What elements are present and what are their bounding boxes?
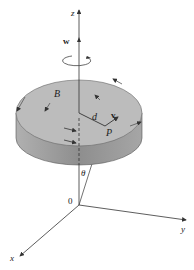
origin-label: 0 bbox=[68, 196, 73, 206]
y-axis-label: y bbox=[180, 224, 185, 234]
angular-velocity-arrowhead bbox=[77, 37, 81, 42]
rotating-disk-diagram: z w B d v P θ 0 y x bbox=[0, 0, 194, 270]
angular-velocity-label: w bbox=[63, 36, 70, 46]
x-axis-label: x bbox=[9, 253, 14, 263]
body-label: B bbox=[54, 88, 60, 99]
rotation-arrow-icon bbox=[63, 56, 91, 66]
velocity-arrow-rim-top bbox=[113, 79, 122, 84]
y-axis bbox=[79, 205, 186, 220]
x-axis bbox=[20, 205, 79, 256]
velocity-label: v bbox=[111, 110, 116, 120]
angle-label: θ bbox=[81, 168, 86, 178]
point-label: P bbox=[105, 127, 112, 138]
z-axis-label: z bbox=[70, 8, 75, 18]
rotation-arrowhead-icon bbox=[86, 56, 91, 59]
